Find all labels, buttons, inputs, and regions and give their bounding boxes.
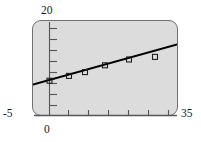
x-axis-origin-label: 0 bbox=[44, 124, 50, 136]
x-axis-min-label: -5 bbox=[3, 108, 13, 120]
plot-drawing-layer bbox=[0, 0, 201, 142]
y-axis-ticks bbox=[50, 29, 58, 106]
y-axis-max-label: 20 bbox=[41, 5, 53, 17]
data-point bbox=[153, 54, 158, 59]
scatter-chart-figure: 20 -5 0 35 bbox=[0, 0, 201, 142]
x-axis-max-label: 35 bbox=[181, 108, 193, 120]
x-axis-ticks bbox=[69, 110, 169, 116]
data-point-markers bbox=[47, 54, 158, 83]
